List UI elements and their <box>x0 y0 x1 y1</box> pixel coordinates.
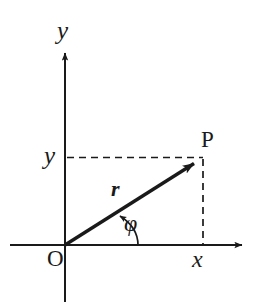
origin-label: O <box>47 247 64 270</box>
x-coordinate-label: x <box>192 247 203 271</box>
y-axis-label: y <box>57 18 68 43</box>
y-coordinate-label: y <box>44 143 55 168</box>
figure-canvas <box>0 0 256 302</box>
angle-phi-label: φ <box>124 211 137 235</box>
vector-r-label: r <box>111 178 120 200</box>
point-p-label: P <box>201 128 214 151</box>
polar-coordinates-figure: y P y r φ O x <box>0 0 256 302</box>
